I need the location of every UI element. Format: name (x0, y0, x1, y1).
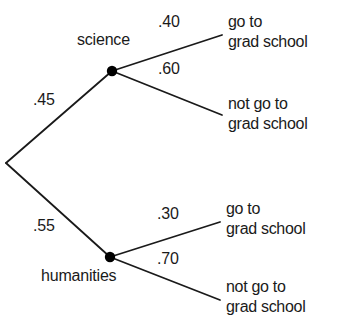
outcome-label-humanities-nograd: not go to grad school (226, 277, 305, 318)
outcome-line-1: go to (228, 13, 262, 30)
outcome-line-1: go to (226, 200, 260, 217)
probability-label-science-grad: .40 (158, 14, 180, 30)
outcome-line-2: grad school (226, 219, 305, 239)
branch-root-to-science (6, 71, 112, 163)
outcome-line-2: grad school (228, 114, 307, 134)
outcome-line-2: grad school (226, 297, 305, 317)
outcome-line-1: not go to (228, 95, 288, 112)
node-dot-humanities (105, 252, 115, 262)
node-label-humanities: humanities (41, 268, 116, 284)
outcome-label-science-grad: go to grad school (228, 12, 307, 53)
outcome-label-science-nograd: not go to grad school (228, 94, 307, 135)
probability-tree-diagram: science humanities .45 .55 .40 .60 .30 .… (0, 0, 338, 325)
probability-label-science: .45 (33, 92, 55, 108)
probability-label-humanities: .55 (33, 218, 55, 234)
outcome-line-1: not go to (226, 278, 286, 295)
branch-root-to-humanities (6, 163, 110, 257)
node-label-science: science (77, 32, 130, 48)
probability-label-humanities-nograd: .70 (157, 251, 179, 267)
probability-label-humanities-grad: .30 (157, 206, 179, 222)
branch-science-to-nograd (112, 71, 222, 115)
node-dot-science (107, 66, 117, 76)
outcome-label-humanities-grad: go to grad school (226, 199, 305, 240)
probability-label-science-nograd: .60 (158, 61, 180, 77)
outcome-line-2: grad school (228, 32, 307, 52)
